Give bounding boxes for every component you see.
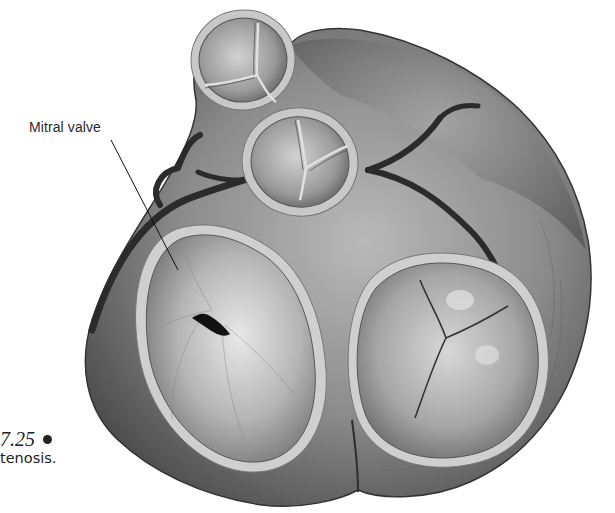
bullet-icon bbox=[43, 435, 52, 444]
figure-number-text: 7.25 bbox=[0, 428, 35, 450]
heart-valves-illustration bbox=[0, 0, 615, 513]
tricuspid-valve bbox=[348, 253, 548, 467]
mitral-valve-label: Mitral valve bbox=[29, 119, 101, 135]
figure-caption: tenosis. bbox=[0, 450, 56, 466]
figure-number: 7.25 bbox=[0, 428, 52, 451]
